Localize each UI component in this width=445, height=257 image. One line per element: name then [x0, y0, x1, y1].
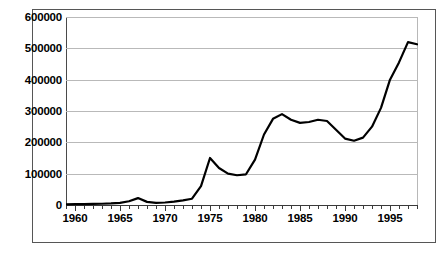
- x-axis-minor-tick: [246, 206, 247, 209]
- y-axis-tick-label: 200000: [25, 136, 62, 148]
- x-axis-major-tick: [210, 206, 211, 211]
- x-axis-tick-label: 1995: [378, 212, 403, 224]
- x-axis-tick-label: 1970: [153, 212, 178, 224]
- x-axis-minor-tick: [273, 206, 274, 209]
- x-axis-major-tick: [390, 206, 391, 211]
- x-axis-major-tick: [165, 206, 166, 211]
- x-axis-minor-tick: [111, 206, 112, 209]
- y-axis-labels: 0100000200000300000400000500000600000: [0, 0, 62, 257]
- x-axis-minor-tick: [282, 206, 283, 209]
- x-axis-minor-tick: [66, 206, 67, 209]
- x-axis-minor-tick: [381, 206, 382, 209]
- x-axis-tick-label: 1990: [333, 212, 358, 224]
- x-axis-minor-tick: [354, 206, 355, 209]
- y-axis-tick-label: 600000: [25, 11, 62, 23]
- y-axis-tick-label: 0: [56, 199, 62, 211]
- x-axis-minor-tick: [264, 206, 265, 209]
- x-axis-minor-tick: [84, 206, 85, 209]
- x-axis-major-tick: [120, 206, 121, 211]
- x-axis-minor-tick: [183, 206, 184, 209]
- x-axis-tick-label: 1975: [198, 212, 223, 224]
- x-axis-minor-tick: [138, 206, 139, 209]
- x-axis-minor-tick: [174, 206, 175, 209]
- x-axis-minor-tick: [318, 206, 319, 209]
- x-axis-minor-tick: [417, 206, 418, 209]
- y-axis-tick-label: 300000: [25, 105, 62, 117]
- x-axis-major-tick: [345, 206, 346, 211]
- x-axis-tick-label: 1985: [288, 212, 313, 224]
- y-axis-tick-label: 400000: [25, 74, 62, 86]
- x-axis-minor-tick: [93, 206, 94, 209]
- x-axis-minor-tick: [291, 206, 292, 209]
- x-axis-minor-tick: [147, 206, 148, 209]
- x-axis-minor-tick: [408, 206, 409, 209]
- x-axis-minor-tick: [228, 206, 229, 209]
- data-series-line: [66, 17, 418, 206]
- x-axis-major-tick: [75, 206, 76, 211]
- x-axis-tick-label: 1980: [243, 212, 268, 224]
- x-axis-minor-tick: [363, 206, 364, 209]
- y-axis-tick-label: 500000: [25, 42, 62, 54]
- x-axis-minor-tick: [237, 206, 238, 209]
- x-axis-minor-tick: [129, 206, 130, 209]
- x-axis-minor-tick: [156, 206, 157, 209]
- y-axis-tick-label: 100000: [25, 168, 62, 180]
- x-axis-minor-tick: [309, 206, 310, 209]
- x-axis-minor-tick: [336, 206, 337, 209]
- x-axis-minor-tick: [327, 206, 328, 209]
- x-axis-minor-tick: [372, 206, 373, 209]
- x-axis-major-tick: [255, 206, 256, 211]
- x-axis-minor-tick: [399, 206, 400, 209]
- x-axis-minor-tick: [192, 206, 193, 209]
- x-axis-tick-label: 1965: [108, 212, 133, 224]
- chart-figure: 0100000200000300000400000500000600000 19…: [0, 0, 445, 257]
- x-axis-minor-tick: [219, 206, 220, 209]
- x-axis-minor-tick: [201, 206, 202, 209]
- x-axis-major-tick: [300, 206, 301, 211]
- x-axis-tick-label: 1960: [63, 212, 88, 224]
- x-axis-minor-tick: [102, 206, 103, 209]
